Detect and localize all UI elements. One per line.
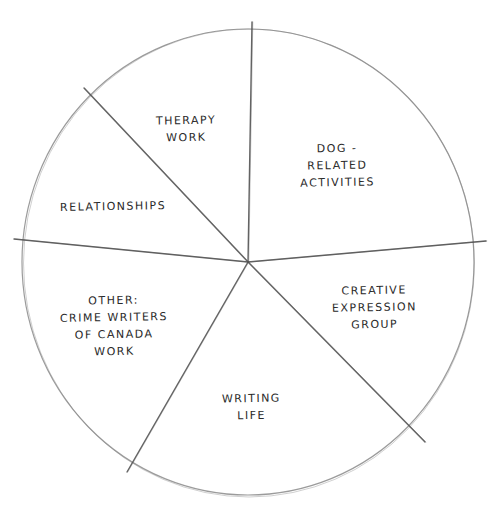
slice-label-line: Dog -	[300, 139, 375, 157]
slice-label-line: Expression	[332, 298, 417, 316]
slice-label-line: Related	[300, 156, 375, 174]
slice-label: Dog -RelatedActivities	[300, 139, 376, 191]
slice-divider-line	[15, 239, 249, 262]
slice-label-line: Work	[60, 342, 168, 361]
slice-label-line: Creative	[332, 281, 417, 299]
slice-label-line: Other:	[59, 291, 167, 310]
slice-label-line: Therapy	[156, 111, 217, 129]
slice-label-line: Activities	[300, 173, 375, 191]
slice-label-line: of Canada	[60, 325, 168, 344]
slice-label-line: Life	[222, 406, 281, 424]
slice-label-line: Crime Writers	[60, 308, 168, 327]
pie-chart	[0, 0, 496, 510]
slice-label: Other:Crime Writersof CanadaWork	[59, 291, 168, 361]
slice-divider-line	[248, 22, 252, 262]
slice-label-line: Group	[332, 315, 417, 333]
slice-label: CreativeExpressionGroup	[332, 281, 418, 333]
slice-label-line: Relationships	[60, 197, 166, 216]
slice-divider-line	[249, 241, 487, 262]
slice-label: Relationships	[60, 197, 166, 216]
slice-label: WritingLife	[222, 389, 282, 424]
slice-label: TherapyWork	[156, 111, 217, 146]
slice-label-line: Writing	[222, 389, 281, 407]
slice-label-line: Work	[156, 128, 217, 146]
